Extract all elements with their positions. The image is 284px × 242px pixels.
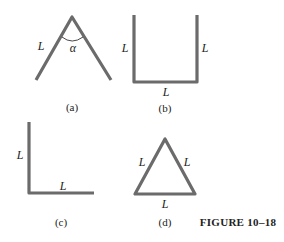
- figure-canvas: L α (a) L L L (b) L L (c) L L L (d) FIGU…: [0, 0, 284, 242]
- panel-d-bottom-label: L: [162, 198, 169, 210]
- panel-c-vertical-label: L: [17, 149, 24, 161]
- panel-c-horizontal-label: L: [60, 180, 67, 192]
- panel-b-right-label: L: [202, 42, 209, 54]
- panel-b-left-label: L: [122, 42, 129, 54]
- panel-a-length-label: L: [38, 40, 45, 52]
- panel-b-rod: [134, 15, 197, 82]
- figure-title: FIGURE 10–18: [200, 217, 277, 228]
- panel-c-caption: (c): [55, 217, 67, 228]
- panel-a-caption: (a): [66, 102, 78, 113]
- panel-d-caption: (d): [159, 217, 172, 228]
- panel-d-left-label: L: [139, 156, 146, 168]
- panel-a-angle-label: α: [70, 42, 76, 54]
- panel-b-bottom-label: L: [163, 86, 170, 98]
- panel-d-right-label: L: [184, 156, 191, 168]
- panel-b-caption: (b): [159, 103, 172, 114]
- rod-drawings: [0, 0, 284, 242]
